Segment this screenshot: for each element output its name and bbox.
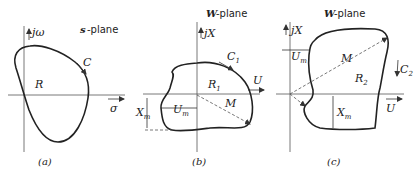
caption: (a) bbox=[38, 156, 52, 167]
magnitude-label: M bbox=[340, 52, 353, 65]
caption: (b) bbox=[192, 156, 206, 167]
min-distance-vector bbox=[290, 94, 305, 106]
caption: (c) bbox=[327, 156, 341, 167]
contour-label: C2 bbox=[400, 63, 413, 78]
um-label: Um bbox=[173, 103, 189, 118]
contour-label: C1 bbox=[227, 50, 240, 65]
sigma-label: σ bbox=[110, 102, 118, 115]
um-label: Um bbox=[291, 50, 307, 65]
magnitude-vector bbox=[290, 38, 387, 94]
magnitude-vector bbox=[197, 95, 250, 124]
u-label: U bbox=[386, 102, 396, 115]
contour-mapping-diagram: jω s -plane C R σ (a) W -plane jX C1 R1 … bbox=[0, 0, 417, 171]
panel-b-w-plane: W -plane jX C1 R1 U M Um Xm (b) bbox=[135, 8, 264, 167]
plane-title-prefix: s bbox=[80, 24, 86, 35]
magnitude-label: M bbox=[224, 97, 237, 110]
jx-label: jX bbox=[201, 27, 216, 40]
xm-label: Xm bbox=[336, 106, 352, 121]
jw-label: jω bbox=[29, 26, 44, 39]
plane-title-suffix: -plane bbox=[216, 8, 247, 19]
direction-arrow-icon bbox=[397, 60, 398, 76]
region-label: R bbox=[34, 78, 43, 91]
contour-c1 bbox=[161, 62, 253, 130]
plane-title-suffix: -plane bbox=[334, 8, 365, 19]
contour-c bbox=[15, 46, 89, 142]
panel-c-w-plane: W -plane jX Um M C2 R2 Xm U (c) bbox=[276, 8, 413, 167]
xm-label: Xm bbox=[135, 106, 151, 121]
contour-label: C bbox=[83, 56, 92, 69]
u-label: U bbox=[253, 74, 263, 87]
direction-arrow-icon bbox=[219, 62, 233, 70]
panel-a-s-plane: jω s -plane C R σ (a) bbox=[8, 24, 125, 167]
jx-label: jX bbox=[288, 24, 303, 37]
plane-title-suffix: -plane bbox=[87, 24, 118, 35]
region-label: R2 bbox=[354, 72, 368, 87]
region-label: R1 bbox=[207, 78, 221, 93]
